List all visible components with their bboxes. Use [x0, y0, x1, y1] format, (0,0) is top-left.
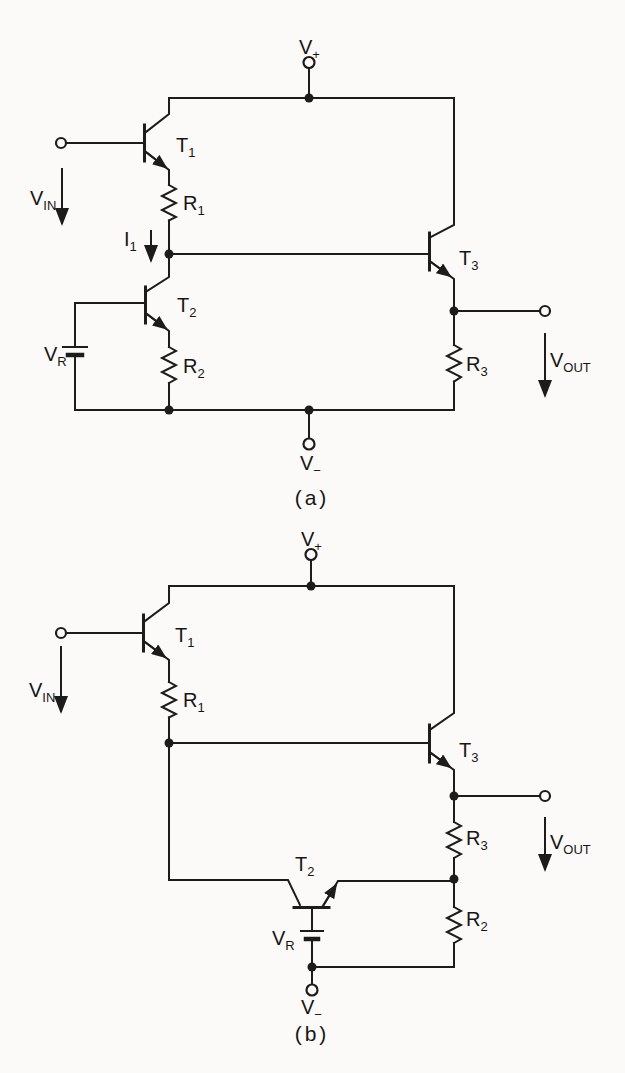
junction-dot: [305, 94, 314, 103]
caption-a: (a): [295, 486, 330, 509]
transistor-t2-a: [75, 254, 169, 347]
label-t1-b: T1: [175, 624, 194, 650]
label-t3-a: T3: [459, 247, 478, 273]
label-r3-a: R3: [466, 353, 488, 379]
label-t2-a: T2: [177, 294, 196, 320]
label-vin-a: VIN: [30, 187, 56, 213]
t1-collector-wire-b: [145, 586, 169, 621]
t3-collector-wire-a: [431, 98, 454, 237]
junction-dot: [165, 406, 174, 415]
caption-b: (b): [295, 1022, 330, 1045]
circuit-figure: V+ T1 VIN R1 I1 T2 VR R2 T3 R3 VOUT V− (…: [0, 0, 625, 1073]
resistor-r2-a: [162, 347, 176, 383]
t2-emitter-arrow-icon: [147, 314, 166, 329]
battery-vr-b: [301, 931, 323, 967]
terminal-output-b: [540, 791, 550, 801]
terminal-input-b: [56, 628, 66, 638]
label-vminus-a: V−: [300, 452, 321, 478]
transistor-t2-b: [294, 881, 454, 929]
t1-emitter-arrow-icon: [145, 642, 165, 657]
terminal-vminus-b: [307, 985, 318, 996]
circuit-a: V+ T1 VIN R1 I1 T2 VR R2 T3 R3 VOUT V− (…: [30, 36, 591, 509]
t3-collector-wire-b: [431, 586, 454, 729]
junction-dot: [450, 875, 459, 884]
t1-emitter-wire-a: [146, 152, 169, 185]
t3-emitter-arrow-icon: [431, 753, 450, 767]
t3-emitter-wire-b: [431, 753, 454, 796]
junction-dot: [165, 250, 174, 259]
junction-dot: [450, 792, 459, 801]
label-r2-a: R2: [183, 355, 205, 381]
transistor-t3-b: [430, 586, 455, 796]
resistor-r3-b: [447, 822, 461, 858]
terminal-input-a: [56, 138, 66, 148]
transistor-t1-a: [66, 98, 169, 185]
label-vr-b: VR: [272, 927, 295, 953]
junction-dot: [450, 307, 459, 316]
label-vout-b: VOUT: [550, 831, 591, 857]
transistor-t3-a: [430, 98, 455, 311]
resistor-r1-a: [162, 185, 176, 221]
label-r1-b: R1: [183, 689, 205, 715]
label-t2-b: T2: [295, 853, 314, 879]
label-i1-a: I1: [124, 228, 137, 254]
label-r3-b: R3: [466, 827, 488, 853]
t2-emitter-arrow-icon: [323, 885, 336, 906]
transistor-t1-b: [66, 586, 169, 682]
resistor-r1-b: [162, 682, 176, 718]
circuit-b: V+ T1 VIN R1 T3 VOUT R3 T2 VR R2 V− (b): [29, 528, 591, 1045]
label-vminus-b: V−: [301, 996, 322, 1022]
t1-emitter-wire-b: [145, 642, 169, 682]
label-r2-b: R2: [466, 908, 488, 934]
junction-dot: [308, 963, 317, 972]
label-vout-a: VOUT: [550, 349, 591, 375]
wire-r2-to-vminus-b: [312, 943, 454, 967]
junction-dot: [305, 406, 314, 415]
junction-dot: [165, 739, 174, 748]
t1-emitter-arrow-icon: [146, 152, 166, 168]
terminal-vminus-a: [304, 439, 315, 450]
t2-emitter-wire-b: [323, 881, 454, 906]
resistor-r3-a: [447, 345, 461, 382]
label-t3-b: T3: [459, 739, 478, 765]
wire-node-to-t2-collector-b: [169, 743, 300, 905]
resistor-r2-b: [447, 907, 461, 943]
t2-emitter-wire-a: [147, 314, 169, 347]
junction-dot: [307, 582, 316, 591]
t1-collector-wire-a: [146, 98, 169, 132]
label-t1-a: T1: [176, 134, 195, 160]
figure-page: V+ T1 VIN R1 I1 T2 VR R2 T3 R3 VOUT V− (…: [0, 0, 625, 1073]
terminal-output-a: [540, 306, 550, 316]
label-r1-a: R1: [183, 192, 205, 218]
t3-emitter-arrow-icon: [431, 262, 450, 276]
label-vin-b: VIN: [29, 679, 55, 705]
